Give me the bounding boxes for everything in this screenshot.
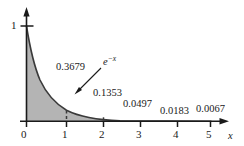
value-label-0p1353: 0.1353	[93, 88, 122, 99]
x-tick-label-3: 3	[136, 129, 142, 140]
x-tick-label-5: 5	[206, 129, 212, 140]
plot-canvas	[0, 0, 244, 146]
y-axis-arrowhead	[23, 7, 29, 17]
curve-function-label: e−x	[103, 57, 116, 68]
x-axis-label: x	[228, 131, 233, 142]
x-axis-arrowhead	[220, 118, 230, 124]
curve-function-exponent: −x	[108, 54, 116, 63]
x-tick-label-2: 2	[99, 129, 105, 140]
y-tick-label-1: 1	[11, 20, 17, 31]
value-label-0p0497: 0.0497	[123, 99, 152, 110]
exponential-decay-figure: 1 0 1 2 3 4 5 x 0.3679 0.1353 0.0497 0.0…	[0, 0, 244, 146]
x-tick-label-1: 1	[62, 129, 68, 140]
value-label-0p0183: 0.0183	[160, 106, 189, 117]
value-label-0p0067: 0.0067	[196, 104, 225, 115]
value-label-0p3679: 0.3679	[56, 62, 85, 73]
x-tick-label-0: 0	[21, 129, 27, 140]
x-tick-label-4: 4	[173, 129, 179, 140]
